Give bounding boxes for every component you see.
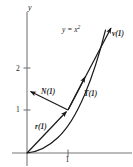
- curve-equation-exponent: 2: [77, 24, 80, 30]
- curve-equation-label: y = x2: [62, 26, 80, 34]
- vector-N-label: N(1): [41, 88, 55, 96]
- y-axis-label: y: [28, 4, 32, 12]
- vector-T-label: T(1): [84, 90, 97, 98]
- y-tick-label-1: 1: [16, 106, 20, 114]
- vector-T: [68, 77, 85, 110]
- vector-r-label: r(1): [35, 123, 47, 131]
- x-tick-label-1: 1: [66, 156, 70, 164]
- vector-v-label: v(1): [112, 30, 124, 38]
- curve-equation-base: y = x: [62, 25, 77, 34]
- vector-calculus-figure: y 2 1 1 y = x2 v(1) T(1) N(1) r(1): [0, 0, 133, 167]
- y-tick-label-2: 2: [16, 65, 20, 73]
